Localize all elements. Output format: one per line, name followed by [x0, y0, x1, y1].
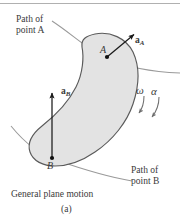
path-of-point-b-label-line1: Path of [131, 165, 159, 176]
path-of-point-a-label: Path of point A [16, 14, 44, 36]
path-of-point-a-label-line1: Path of [16, 14, 44, 25]
path-of-point-a-label-line2: point A [16, 25, 44, 36]
acceleration-vector-b-subscript: B [66, 90, 71, 98]
rigid-body-shape [29, 33, 138, 166]
figure-caption: General plane motion [11, 189, 93, 200]
acceleration-vector-a-subscript: A [140, 39, 145, 47]
point-a-label: A [100, 44, 106, 56]
path-of-point-b-label: Path of point B [131, 165, 159, 187]
angular-velocity-symbol-label: ω [136, 84, 144, 97]
subfigure-label: (a) [61, 204, 72, 215]
angular-acceleration-symbol-label: α [151, 85, 157, 98]
path-of-point-b-label-line2: point B [131, 176, 159, 187]
angular-velocity-arc-arrow [139, 96, 144, 113]
figure-general-plane-motion: Path of point A Path of point B A B aA a… [0, 0, 180, 222]
acceleration-vector-a-label: aA [135, 35, 144, 47]
angular-acceleration-arc-arrow [152, 97, 159, 117]
acceleration-vector-b-label: aB [61, 86, 70, 98]
point-b-label: B [47, 160, 53, 172]
